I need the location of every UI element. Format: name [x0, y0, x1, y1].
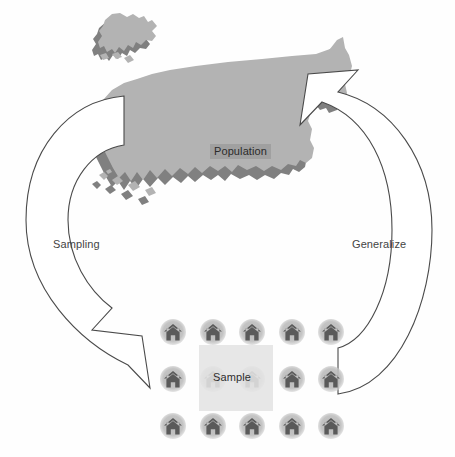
- sample-label: Sample: [213, 371, 251, 383]
- generalize-arrow-label: Generalize: [352, 238, 406, 250]
- sampling-arrow-label: Sampling: [53, 238, 100, 250]
- population-label: Population: [210, 144, 271, 159]
- labels-layer: Population Sample Sampling Generalize: [0, 0, 455, 457]
- diagram-canvas: Population Sample Sampling Generalize: [0, 0, 455, 457]
